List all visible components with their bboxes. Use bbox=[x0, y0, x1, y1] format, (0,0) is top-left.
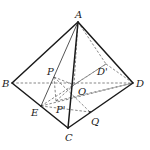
label-E: E bbox=[30, 107, 39, 118]
label-Pp: P' bbox=[55, 104, 65, 115]
label-P: P bbox=[46, 66, 54, 77]
point-E bbox=[40, 105, 42, 107]
edge-DpD bbox=[106, 64, 133, 83]
label-D: D bbox=[135, 78, 144, 89]
edge-AE bbox=[41, 22, 78, 106]
label-Dp: D' bbox=[96, 66, 108, 77]
label-O: O bbox=[78, 86, 86, 97]
edge-ADp bbox=[78, 22, 106, 64]
edge-EQ bbox=[41, 106, 90, 112]
label-Q: Q bbox=[91, 116, 99, 127]
label-B: B bbox=[1, 78, 9, 89]
edge-AB bbox=[12, 22, 78, 83]
label-C: C bbox=[65, 132, 73, 143]
point-Q bbox=[89, 111, 91, 113]
edge-PO bbox=[54, 77, 74, 85]
edge-PPp bbox=[54, 77, 56, 101]
pyramid-diagram: A B C D O P E P' Q D' bbox=[0, 0, 150, 150]
label-A: A bbox=[74, 9, 82, 20]
edge-AC bbox=[68, 22, 78, 128]
